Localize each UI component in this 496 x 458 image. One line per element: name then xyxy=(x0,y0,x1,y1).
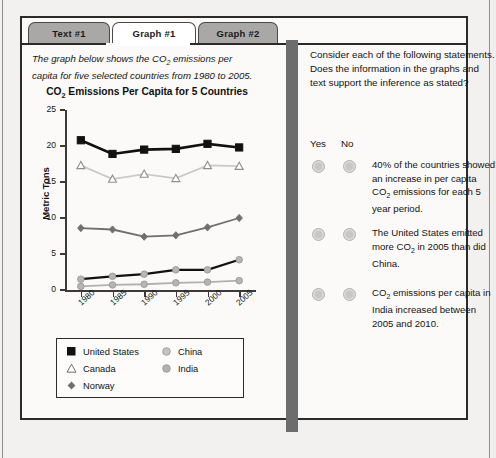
graph-prompt-text: The graph below shows the CO2 emissions … xyxy=(32,52,260,83)
tab-graph-2[interactable]: Graph #2 xyxy=(198,22,278,44)
radio-yes-2[interactable] xyxy=(312,228,325,241)
legend-label-china: China xyxy=(178,347,202,357)
tab-graph-1-label: Graph #1 xyxy=(133,28,176,39)
right-panel: Consider each of the following statement… xyxy=(310,48,495,90)
radio-no-1[interactable] xyxy=(343,160,356,173)
left-panel: The graph below shows the CO2 emissions … xyxy=(22,46,270,420)
legend-marker-triangle-icon xyxy=(66,363,77,374)
statement-text-2: The United States emitted more CO2 in 20… xyxy=(372,226,496,270)
chart-point xyxy=(236,277,243,284)
legend-marker-circle-gray-icon xyxy=(161,363,172,374)
chart-point xyxy=(109,273,116,280)
radio-no-3[interactable] xyxy=(343,288,356,301)
chart-point xyxy=(236,144,243,151)
chart-point xyxy=(173,232,179,239)
chart-point xyxy=(78,276,85,283)
tab-graph-1[interactable]: Graph #1 xyxy=(112,22,196,44)
legend-marker-diamond-icon xyxy=(66,380,77,391)
chart-point xyxy=(204,140,211,147)
legend-item-china: China xyxy=(161,346,202,357)
radio-no-2[interactable] xyxy=(343,228,356,241)
legend-marker-square-icon xyxy=(66,346,77,357)
legend-label-canada: Canada xyxy=(83,364,116,374)
chart-point xyxy=(78,283,85,290)
chart-point xyxy=(77,137,84,144)
chart-point xyxy=(109,150,116,157)
chart-point xyxy=(141,281,148,288)
line-chart: Metric Tons 0510152025198019851990199520… xyxy=(32,102,264,332)
chart-point xyxy=(204,267,211,274)
chart-point xyxy=(141,233,147,240)
chart-line-china xyxy=(81,260,239,279)
chart-series-layer xyxy=(32,102,264,302)
chart-point xyxy=(78,224,84,231)
chart-title: CO2 Emissions Per Capita for 5 Countries xyxy=(30,86,264,100)
tab-graph-2-label: Graph #2 xyxy=(217,28,260,39)
chart-line-canada xyxy=(81,165,239,179)
chart-point xyxy=(109,282,116,289)
tab-text-1[interactable]: Text #1 xyxy=(28,22,110,44)
chart-point xyxy=(236,256,243,263)
chart-point xyxy=(236,214,242,221)
chart-line-india xyxy=(81,281,239,287)
chart-line-united-states xyxy=(81,140,239,154)
chart-line-norway xyxy=(81,218,239,237)
chart-point xyxy=(172,145,179,152)
chart-point xyxy=(141,146,148,153)
radio-yes-1[interactable] xyxy=(312,160,325,173)
panel-divider xyxy=(286,40,298,432)
legend-item-norway: Norway xyxy=(66,380,115,391)
chart-legend: United States Canada Norway China India xyxy=(56,338,244,398)
tab-text-1-label: Text #1 xyxy=(52,28,85,39)
content-panel: Text #1 Graph #1 Graph #2 The graph belo… xyxy=(20,16,468,420)
chart-point xyxy=(141,271,148,278)
legend-item-india: India xyxy=(161,363,198,374)
legend-label-india: India xyxy=(178,364,198,374)
legend-marker-circle-light-icon xyxy=(161,346,172,357)
statement-text-3: CO2 emissions per capita in India increa… xyxy=(372,286,496,330)
legend-label-norway: Norway xyxy=(83,381,115,391)
chart-point xyxy=(77,161,85,168)
statement-text-1: 40% of the countries showed an increase … xyxy=(372,158,496,216)
chart-point xyxy=(173,280,180,287)
legend-item-united-states: United States xyxy=(66,346,139,357)
chart-point xyxy=(204,279,211,286)
tab-underline xyxy=(22,43,466,45)
radio-yes-3[interactable] xyxy=(312,288,325,301)
question-intro: Consider each of the following statement… xyxy=(310,48,495,90)
chart-point xyxy=(204,224,210,231)
legend-item-canada: Canada xyxy=(66,363,116,374)
chart-point xyxy=(109,226,115,233)
no-column-label: No xyxy=(341,138,354,149)
chart-point xyxy=(173,267,180,274)
page-edge-left xyxy=(2,0,3,458)
yes-column-label: Yes xyxy=(310,138,326,149)
legend-label-united-states: United States xyxy=(83,347,139,357)
